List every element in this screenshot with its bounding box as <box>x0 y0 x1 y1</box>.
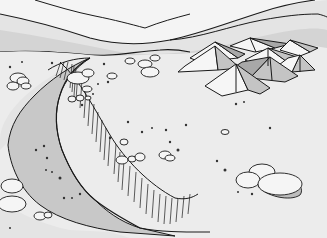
illustration <box>0 0 327 238</box>
landscape-drawing <box>0 0 327 238</box>
